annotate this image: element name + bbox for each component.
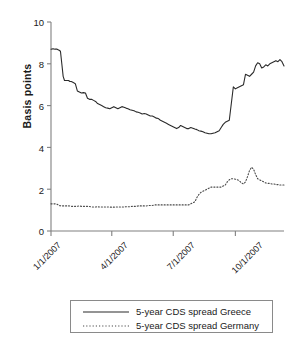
y-axis-title: Basis points xyxy=(21,41,33,151)
plot-canvas xyxy=(0,0,287,345)
chart-legend: 5-year CDS spread Greece 5-year CDS spre… xyxy=(70,300,273,333)
legend-label-germany: 5-year CDS spread Germany xyxy=(136,320,259,331)
chart-figure: Basis points 10 8 6 4 2 0 1/1/2007 4/1/2… xyxy=(0,0,287,345)
y-tick-label-0: 0 xyxy=(22,226,44,237)
y-tick-label-6: 6 xyxy=(22,101,44,112)
legend-key-dotted xyxy=(80,322,132,330)
y-tick-label-10: 10 xyxy=(22,17,44,28)
y-tick-label-2: 2 xyxy=(22,185,44,196)
legend-item-germany: 5-year CDS spread Germany xyxy=(71,319,272,332)
legend-item-greece: 5-year CDS spread Greece xyxy=(71,305,272,318)
legend-label-greece: 5-year CDS spread Greece xyxy=(136,306,251,317)
legend-key-solid xyxy=(80,308,132,316)
y-tick-label-8: 8 xyxy=(22,59,44,70)
y-tick-label-4: 4 xyxy=(22,143,44,154)
